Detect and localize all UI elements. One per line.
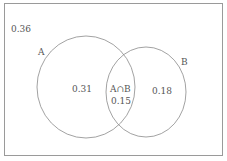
intersection-label: A∩B [109,84,131,94]
set-b-label: B [181,57,188,67]
universe-value: 0.36 [11,24,31,34]
venn-diagram: 0.36 A B 0.31 A∩B 0.15 0.18 [0,0,227,161]
set-a-label: A [37,47,45,57]
set-a-only-value: 0.31 [72,84,92,94]
set-b-only-value: 0.18 [152,86,172,96]
intersection-value: 0.15 [111,96,131,106]
